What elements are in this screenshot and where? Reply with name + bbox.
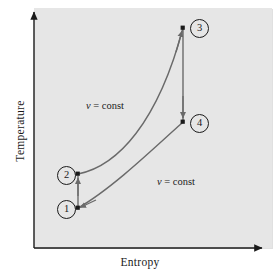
v-const-label-upper: v = const bbox=[86, 100, 124, 111]
x-axis-title: Entropy bbox=[0, 256, 280, 268]
diagram-canvas bbox=[0, 0, 280, 274]
state-label-1: 1 bbox=[57, 200, 76, 219]
state-label-2: 2 bbox=[57, 166, 76, 185]
process-2-3-arrowhead bbox=[176, 31, 182, 52]
v-const-text-upper: = const bbox=[91, 100, 124, 111]
process-4-1-curve bbox=[78, 122, 183, 208]
ts-diagram-figure: 1 2 3 4 v = const v = const Entropy Temp… bbox=[0, 0, 280, 274]
state-point-1 bbox=[76, 206, 80, 210]
state-label-3: 3 bbox=[190, 19, 209, 38]
state-label-4: 4 bbox=[190, 114, 209, 133]
state-point-2 bbox=[76, 172, 80, 176]
v-const-text-lower: = const bbox=[162, 176, 195, 187]
state-point-4 bbox=[181, 120, 185, 124]
y-axis-title: Temperature bbox=[14, 71, 26, 191]
state-point-3 bbox=[181, 26, 185, 30]
v-const-label-lower: v = const bbox=[157, 176, 195, 187]
